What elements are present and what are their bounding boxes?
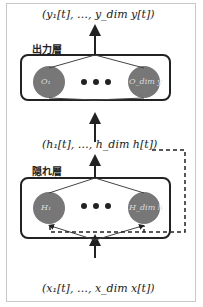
diagram-lines <box>0 0 203 307</box>
output-vector-label: (y₁[t], …, y_dim y[t]) <box>42 8 155 21</box>
hidden-vector-label: (h₁[t], …, h_dim h[t]) <box>42 138 157 151</box>
output-node-last-label: O_dim y <box>129 77 162 86</box>
output-layer-title: 出力層 <box>32 41 62 56</box>
recurrent-loop <box>50 150 185 232</box>
input-vector-label: (x₁[t], …, x_dim x[t]) <box>42 282 155 295</box>
output-node-1-label: O₁ <box>41 77 51 86</box>
hidden-layer-title: 隠れ層 <box>32 163 62 178</box>
hidden-node-last-label: H_dim h <box>129 203 163 212</box>
hidden-node-1-label: H₁ <box>41 203 51 212</box>
